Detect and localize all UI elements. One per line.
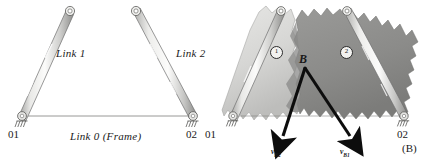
panel-a-pivot-o2-label: 02	[186, 129, 197, 140]
link1-bar	[18, 11, 74, 121]
velocity-vector-vb2-label: vB2	[271, 148, 281, 158]
link2-bar	[132, 8, 197, 118]
link2-top-pivot-hole-icon	[134, 9, 138, 13]
vb1-subscript: B1	[343, 152, 349, 158]
link2-label: Link 2	[176, 48, 206, 59]
panel-b-group	[222, 6, 418, 136]
point-b-label: B	[299, 53, 307, 65]
point-b-marker	[303, 66, 306, 69]
panel-b-link2-top-pivot-hole-icon	[345, 9, 349, 13]
panel-b-pivot-o1-label: 01	[205, 129, 216, 140]
velocity-vector-vb1-label: vB1	[340, 148, 350, 158]
panel-a-group	[15, 6, 199, 127]
link0-frame-label: Link 0 (Frame)	[70, 131, 141, 142]
region-1-number-badge: 1	[270, 46, 283, 59]
region-2-number-badge: 2	[340, 46, 353, 59]
figure-panel-label: (B)	[402, 143, 417, 154]
figure-svg	[0, 0, 432, 162]
panel-b-link1-top-pivot-hole-icon	[279, 9, 283, 13]
figure-container: Link 1 Link 2 Link 0 (Frame) 01 02 01 02…	[0, 0, 432, 162]
panel-b-pivot-o2-label: 02	[397, 129, 408, 140]
vb2-subscript: B2	[274, 152, 280, 158]
panel-a-pivot-o1-label: 01	[8, 129, 19, 140]
link1-label: Link 1	[56, 48, 86, 59]
link1-top-pivot-hole-icon	[68, 9, 72, 13]
